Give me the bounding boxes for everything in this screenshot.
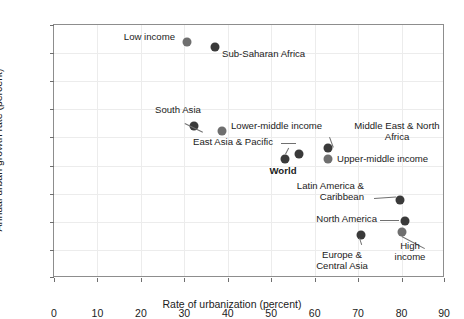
xtick-20 [141, 278, 142, 282]
gridline-y-3.5 [54, 81, 443, 82]
ytick-2.0 [50, 166, 54, 167]
data-point-world[interactable] [280, 155, 289, 164]
point-label-upper-middle-income: Upper-middle income [337, 153, 428, 165]
gridline-x-40 [228, 25, 229, 276]
point-label-world: World [252, 165, 314, 177]
leader-world [285, 148, 289, 155]
point-label-middle-east-north-africa-line1: Middle East & North [338, 120, 456, 132]
gridline-x-20 [141, 25, 142, 276]
xtick-70 [358, 278, 359, 282]
data-point-east-asia-pacific[interactable] [294, 149, 303, 158]
ytick-4.5 [50, 25, 54, 26]
ytick-1.0 [50, 222, 54, 223]
point-label-sub-saharan-africa: Sub-Saharan Africa [222, 48, 305, 60]
gridline-y-2.0 [54, 166, 443, 167]
ytick-3.0 [50, 109, 54, 110]
xtick-60 [315, 278, 316, 282]
point-label-south-asia: South Asia [155, 104, 201, 116]
ytick-0.5 [50, 250, 54, 251]
gridline-y-1.0 [54, 222, 443, 223]
y-axis-title: Annual urban growth rate (percent) [0, 69, 4, 232]
point-label-europe-central-asia-line1: Europe & [296, 249, 388, 261]
point-label-europe-central-asia-line2: Central Asia [296, 260, 388, 272]
point-label-high-income-line1: High [386, 240, 434, 252]
gridline-y-3.0 [54, 109, 443, 110]
xtick-30 [184, 278, 185, 282]
data-point-lower-middle-income[interactable] [217, 127, 226, 136]
xtick-90 [444, 278, 445, 282]
x-axis-title: Rate of urbanization (percent) [0, 298, 464, 310]
ytick-1.5 [50, 194, 54, 195]
point-label-latin-america-line2: Caribbean [258, 191, 364, 203]
ytick-3.5 [50, 81, 54, 82]
data-point-north-america[interactable] [401, 217, 410, 226]
point-label-latin-america-line1: Latin America & [258, 180, 364, 192]
leader-north-america [380, 220, 399, 221]
point-label-lower-middle-income: Lower-middle income [231, 120, 322, 132]
data-point-upper-middle-income[interactable] [323, 155, 332, 164]
data-point-low-income[interactable] [182, 37, 191, 46]
xtick-10 [97, 278, 98, 282]
point-label-middle-east-north-africa-line2: Africa [338, 131, 456, 143]
gridline-x-10 [97, 25, 98, 276]
xtick-40 [228, 278, 229, 282]
gridline-x-50 [271, 25, 272, 276]
ytick-0.0 [50, 277, 54, 278]
point-label-low-income: Low income [63, 31, 175, 43]
gridline-x-80 [402, 25, 403, 276]
leader-east-asia-pacific [281, 143, 296, 144]
gridline-x-60 [315, 25, 316, 276]
xtick-0 [54, 278, 55, 282]
gridline-y-1.5 [54, 194, 443, 195]
point-label-high-income-line2: income [386, 251, 434, 263]
data-point-sub-saharan-africa[interactable] [210, 43, 219, 52]
point-label-north-america: North America [275, 213, 377, 225]
data-point-latin-america-caribbean[interactable] [395, 195, 404, 204]
xtick-50 [271, 278, 272, 282]
ytick-4.0 [50, 53, 54, 54]
gridline-x-30 [184, 25, 185, 276]
ytick-2.5 [50, 137, 54, 138]
leader-latin-america [374, 196, 396, 199]
scatter-chart-figure: Annual urban growth rate (percent) [0, 0, 464, 319]
point-label-east-asia-pacific: East Asia & Pacific [173, 136, 273, 148]
xtick-80 [402, 278, 403, 282]
